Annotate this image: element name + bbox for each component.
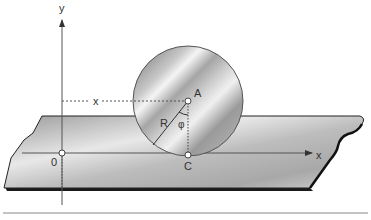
point-origin [59, 150, 65, 156]
point-c [185, 152, 191, 158]
point-a [185, 98, 191, 104]
rolling-disc-diagram: y x x 0 A C R φ [0, 0, 371, 220]
x-coordinate-label: x [93, 95, 99, 107]
angle-label: φ [178, 119, 185, 130]
center-label: A [194, 87, 202, 99]
y-axis-label: y [59, 2, 65, 14]
x-axis-label: x [316, 149, 322, 161]
radius-label: R [160, 117, 168, 129]
origin-label: 0 [51, 156, 57, 168]
contact-point-label: C [184, 160, 192, 172]
